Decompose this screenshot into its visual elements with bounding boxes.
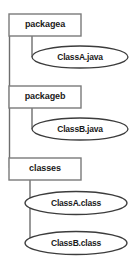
file-node-classb-class[interactable] [25,232,127,255]
classb-java-ellipse[interactable] [32,118,128,140]
package-node-packageb[interactable] [9,86,81,108]
package-node-packagea[interactable] [9,14,81,36]
package-node-classes[interactable] [9,158,81,180]
connector-lines [10,36,33,245]
file-node-classb-java[interactable] [32,118,128,140]
package-structure-diagram [0,0,134,269]
file-node-classa-java[interactable] [32,46,128,68]
file-node-classa-class[interactable] [25,192,127,215]
classa-java-ellipse[interactable] [32,46,128,68]
packagea-box[interactable] [9,14,81,36]
classb-class-ellipse[interactable] [25,232,127,255]
packageb-box[interactable] [9,86,81,108]
classes-box[interactable] [9,158,81,180]
classa-class-ellipse[interactable] [25,192,127,215]
